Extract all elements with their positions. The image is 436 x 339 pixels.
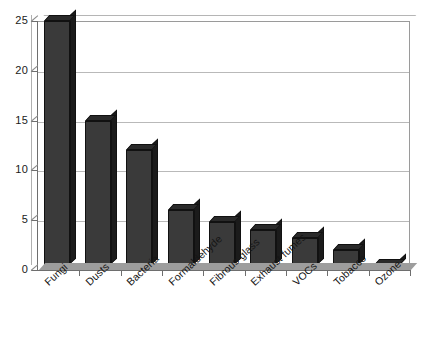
y-axis-tick [31, 170, 38, 171]
y-axis-label: 5 [0, 214, 28, 225]
x-axis-tick [162, 271, 163, 276]
bar-side-face [152, 139, 158, 264]
y-axis-line [37, 21, 38, 271]
y-axis-back-line [31, 15, 32, 265]
bar [44, 21, 70, 270]
y-axis-label: 25 [0, 15, 28, 26]
x-axis-tick [369, 271, 370, 276]
y-axis-label: 15 [0, 115, 28, 126]
y-axis-label: 0 [0, 264, 28, 275]
x-axis-tick [121, 271, 122, 276]
gridline [38, 72, 409, 73]
x-axis-tick [79, 271, 80, 276]
bar-side-face [70, 10, 76, 264]
y-axis-tick [31, 220, 38, 221]
bar-front-face [85, 121, 111, 270]
x-axis-tick [410, 271, 411, 276]
bar-front-face [126, 150, 152, 270]
bar [85, 121, 111, 270]
bar-side-face [111, 109, 117, 264]
x-axis-tick [245, 271, 246, 276]
y-axis-label: 20 [0, 65, 28, 76]
plot-area [38, 21, 410, 270]
bar-chart: 0510152025 FungiDustsBacteriaFormaldehyd… [0, 0, 436, 339]
x-axis-tick [203, 271, 204, 276]
x-axis-tick [286, 271, 287, 276]
y-axis-label: 10 [0, 164, 28, 175]
bar-front-face [44, 21, 70, 270]
bar [126, 150, 152, 270]
x-axis-tick [327, 271, 328, 276]
